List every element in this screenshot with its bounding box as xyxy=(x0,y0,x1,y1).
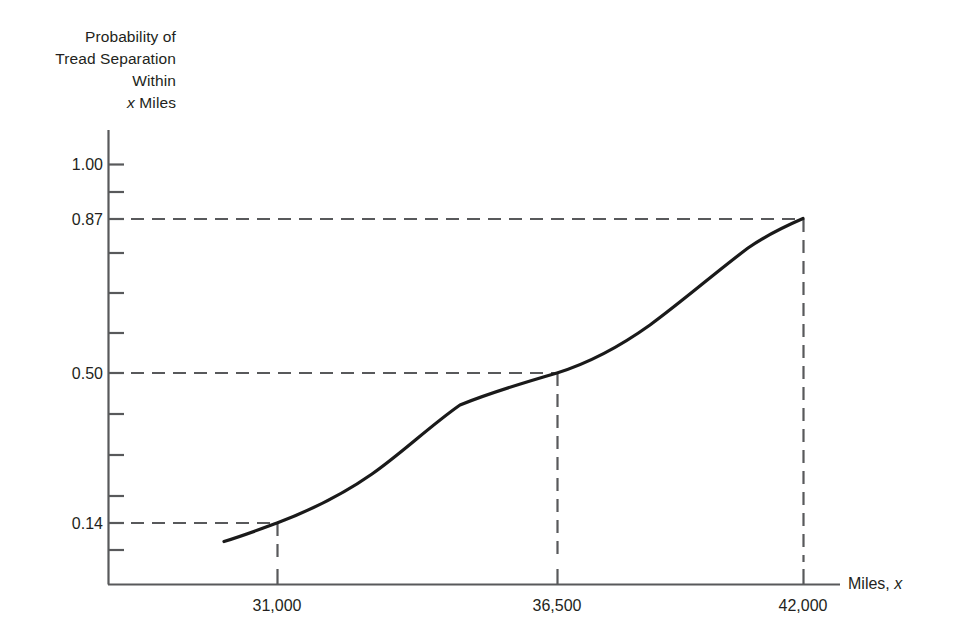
y-axis-title-line-1: Probability of xyxy=(0,26,176,48)
y-axis-title-line-4-rest: Miles xyxy=(135,94,176,111)
x-tick-label-42000: 42,000 xyxy=(743,598,863,614)
y-tick-label-0.50: 0.50 xyxy=(33,366,103,382)
vertical-guide-lines xyxy=(278,219,804,562)
y-axis-title-line-3: Within xyxy=(0,70,176,92)
x-tick-label-36500: 36,500 xyxy=(497,598,617,614)
y-tick-label-0.14: 0.14 xyxy=(33,516,103,532)
horizontal-guide-lines xyxy=(110,219,803,523)
x-axis-title: Miles, x xyxy=(848,576,902,592)
x-axis-ticks xyxy=(278,569,804,585)
chart-figure: Probability of Tread Separation Within x… xyxy=(0,0,957,635)
y-axis-title-italic-x: x xyxy=(127,94,135,111)
y-tick-label-1.00: 1.00 xyxy=(33,157,103,173)
x-tick-label-31000: 31,000 xyxy=(217,598,337,614)
y-axis-title-line-4: x Miles xyxy=(0,92,176,114)
y-tick-label-0.87: 0.87 xyxy=(33,212,103,228)
x-axis-title-text: Miles, xyxy=(848,575,894,592)
y-axis-title: Probability of Tread Separation Within x… xyxy=(0,26,176,114)
y-axis-title-line-2: Tread Separation xyxy=(0,48,176,70)
probability-curve xyxy=(224,219,803,542)
x-axis-title-italic-x: x xyxy=(894,575,902,592)
y-axis-ticks xyxy=(108,165,124,551)
